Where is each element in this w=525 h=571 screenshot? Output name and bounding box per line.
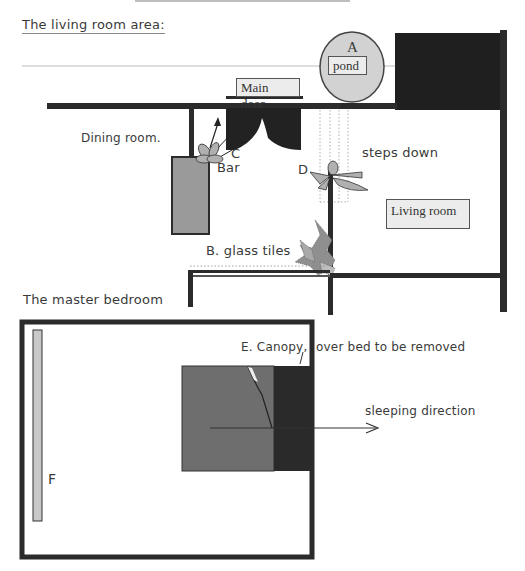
bed bbox=[182, 366, 274, 471]
plant-c-marker: C bbox=[231, 146, 240, 161]
pond-label: pond bbox=[328, 56, 367, 75]
bar-label: Bar bbox=[217, 160, 240, 175]
steps-down-label: steps down bbox=[362, 145, 438, 160]
canopy-label-suffix: over bed to be removed bbox=[316, 340, 465, 354]
plant-d-marker: D bbox=[298, 162, 308, 177]
right-wall bbox=[500, 30, 507, 312]
living-bottom-wall bbox=[330, 273, 505, 278]
outdoor-block bbox=[395, 33, 505, 110]
pond-marker-a: A bbox=[347, 39, 358, 56]
wardrobe-f-marker: F bbox=[48, 471, 56, 487]
bar-counter bbox=[172, 157, 209, 234]
plant-d bbox=[310, 161, 368, 190]
left-lower-wall bbox=[188, 270, 193, 307]
wardrobe-f bbox=[33, 330, 42, 521]
main-door-label: Main door bbox=[236, 78, 300, 97]
glass-tiles-label: B. glass tiles bbox=[206, 243, 291, 258]
door-curtain bbox=[226, 108, 301, 150]
bedroom-title: The master bedroom bbox=[23, 292, 163, 307]
top-wall bbox=[47, 103, 397, 109]
sleeping-direction-label: sleeping direction bbox=[365, 404, 476, 418]
canopy-label-prefix: E. Canopy, bbox=[241, 340, 307, 354]
canopy-headboard bbox=[274, 366, 310, 471]
dining-room-label: Dining room. bbox=[81, 131, 161, 145]
living-room-label: Living room bbox=[386, 199, 470, 229]
